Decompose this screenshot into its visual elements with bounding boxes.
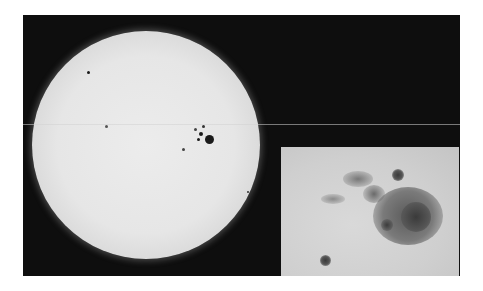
sunspot-group-3: [202, 125, 205, 128]
umbra-left: [381, 219, 393, 231]
pore-bottom-left: [320, 255, 331, 266]
filament-left: [321, 194, 345, 204]
scan-line-artifact: [23, 124, 460, 125]
sunspot-limb-e: [247, 191, 249, 193]
sunspot-small-center: [105, 125, 108, 128]
sunspot-closeup-inset: [281, 147, 460, 276]
sunspot-small-nw: [87, 71, 90, 74]
sunspot-group-1: [199, 132, 203, 136]
sunspot-small-s: [182, 148, 185, 151]
umbra-main: [401, 202, 431, 232]
penumbra-upper: [343, 171, 373, 187]
sunspot-group-4: [194, 128, 197, 131]
pore-top: [392, 169, 404, 181]
sunspot-group-main: [205, 135, 214, 144]
penumbra-upper-2: [363, 185, 385, 203]
solar-disk: [32, 31, 260, 259]
sun-photograph: [23, 15, 460, 276]
sunspot-group-2: [197, 138, 200, 141]
